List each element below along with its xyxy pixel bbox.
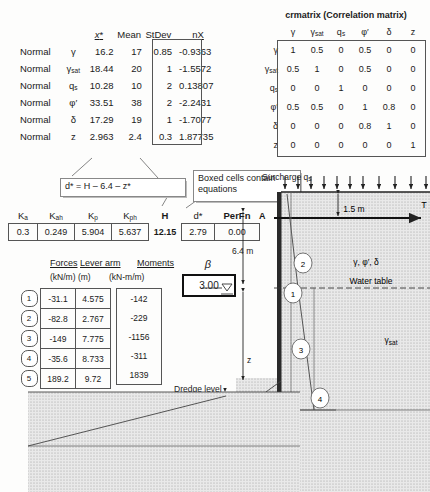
table-row: 1 -31.1 4.575 (18, 289, 111, 309)
cell-symbol: z (62, 128, 84, 145)
matrix-header-row: γ γsat qs φ′ δ z (256, 24, 425, 40)
units-force: (kN/m) (50, 272, 76, 282)
water-table-symbol (202, 284, 233, 294)
svg-text:1: 1 (291, 290, 296, 299)
nx-column-box (152, 39, 202, 145)
header-mean: Mean (117, 26, 145, 43)
svg-text:2: 2 (301, 260, 306, 269)
forces-table: 1 -31.1 4.575 2 -82.8 2.767 3 -149 7.775… (18, 288, 111, 389)
matrix-col-label: γ (281, 24, 305, 40)
correlation-matrix-border (277, 40, 426, 157)
forces-grid: 1 -31.1 4.575 2 -82.8 2.767 3 -149 7.775… (18, 288, 111, 389)
cell-xstar: 16.2 (84, 43, 116, 60)
cell-xstar: 33.51 (84, 94, 116, 111)
cell-distribution: Normal (20, 111, 62, 128)
header-kah: Kah (38, 208, 75, 224)
zone-marker: 1 (18, 289, 41, 309)
surcharge-label: Surcharge qs (262, 172, 312, 182)
table-row: 2 -82.8 2.767 (18, 309, 111, 329)
value-ka: 0.3 (9, 224, 38, 241)
matrix-col-label: z (401, 24, 425, 40)
table-row: 4 -35.6 8.733 (18, 349, 111, 369)
sheet-pile-wall (277, 192, 282, 410)
zone-marker: 2 (18, 309, 41, 329)
zone-marker: 3 (18, 329, 41, 349)
matrix-col-label: qs (329, 24, 353, 40)
cell-mean: 10 (117, 77, 145, 94)
cell-symbol: qs (62, 77, 84, 94)
matrix-corner (256, 24, 281, 40)
cell-distribution: Normal (20, 60, 62, 77)
svg-text:4: 4 (318, 395, 323, 404)
cell-force: -149 (41, 329, 76, 349)
cell-distribution: Normal (20, 128, 62, 145)
cell-xstar: 10.28 (84, 77, 116, 94)
retained-soil-fill (281, 192, 430, 410)
label-1-5m: 1.5 m (343, 204, 364, 214)
cell-distribution: Normal (20, 77, 62, 94)
cell-mean: 38 (117, 94, 145, 111)
header-xstar: x* (84, 26, 116, 43)
matrix-col-label: δ (377, 24, 401, 40)
cell-distribution: Normal (20, 43, 62, 60)
cell-symbol: γ (62, 43, 84, 60)
value-kah: 0.249 (38, 224, 75, 241)
dredge-ground-overlay (0, 386, 300, 492)
header-symbol (62, 26, 84, 43)
cell-xstar: 18.44 (84, 60, 116, 77)
cell-xstar: 2.963 (84, 128, 116, 145)
label-soil-params: γ, φ′, δ (353, 257, 379, 267)
cell-distribution: Normal (20, 94, 62, 111)
zone-marker: 4 (18, 349, 41, 369)
matrix-col-label: φ′ (353, 24, 377, 40)
header-ka: Ka (9, 208, 38, 224)
cell-symbol: φ′ (62, 94, 84, 111)
correlation-matrix-title: crmatrix (Correlation matrix) (266, 10, 426, 20)
svg-text:3: 3 (299, 346, 304, 355)
label-water-table: Water table (349, 276, 392, 286)
cell-force: -35.6 (41, 349, 76, 369)
table-row: 3 -149 7.775 (18, 329, 111, 349)
header-distribution (20, 26, 62, 43)
matrix-col-label: γsat (305, 24, 329, 40)
cell-mean: 20 (117, 60, 145, 77)
cell-mean: 17 (117, 43, 145, 60)
cell-xstar: 17.29 (84, 111, 116, 128)
cell-mean: 2.4 (117, 128, 145, 145)
cell-symbol: γsat (62, 60, 84, 77)
header-forces: Forces (50, 258, 78, 268)
cell-symbol: δ (62, 111, 84, 128)
cell-mean: 19 (117, 111, 145, 128)
label-tension-T: T (421, 200, 427, 210)
units-lever: (m) (78, 272, 91, 282)
cell-force: -31.1 (41, 289, 76, 309)
cell-force: -82.8 (41, 309, 76, 329)
